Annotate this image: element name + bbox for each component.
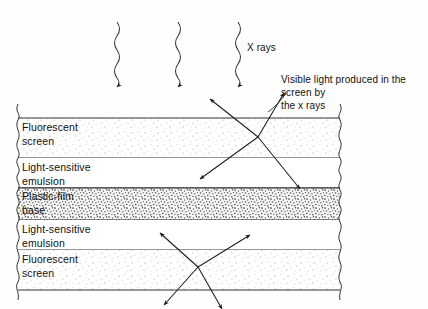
layer-label-fluorescent-screen-top: Fluorescent screen: [22, 121, 78, 148]
xray-beam-1: [115, 22, 120, 87]
layer-label-light-sensitive-emulsion-bottom: Light-sensitive emulsion: [22, 223, 91, 250]
xray-film-diagram: Fluorescent screen Light-sensitive emuls…: [0, 0, 428, 309]
layer-label-fluorescent-screen-bottom: Fluorescent screen: [22, 253, 78, 280]
xray-beams: [115, 22, 241, 87]
layer-label-plastic-film-base: Plastic-film base: [22, 190, 74, 217]
visible-light-caption: Visible light produced in the screen by …: [281, 73, 406, 112]
xray-beam-2: [176, 22, 181, 87]
layer-label-light-sensitive-emulsion-top: Light-sensitive emulsion: [22, 161, 91, 188]
xray-label: X rays: [247, 41, 276, 55]
xray-beam-3: [236, 22, 241, 87]
